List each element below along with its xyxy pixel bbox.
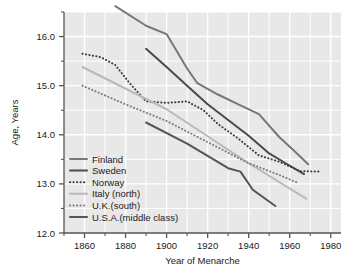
y-tick-label: 16.0 (37, 31, 56, 42)
chart-canvas: 12.013.014.015.016.018601880190019201940… (0, 0, 354, 279)
y-axis-ticks: 12.013.014.015.016.0 (37, 12, 65, 239)
legend-label: Italy (north) (92, 188, 140, 199)
x-tick-label: 1880 (115, 240, 136, 251)
x-axis-ticks: 1860188019001920194019601980 (64, 233, 341, 251)
legend-label: Finland (92, 154, 123, 165)
x-tick-label: 1960 (279, 240, 300, 251)
y-tick-label: 12.0 (37, 228, 56, 239)
y-tick-label: 14.0 (37, 129, 56, 140)
legend-label: Sweden (92, 165, 126, 176)
y-tick-label: 15.0 (37, 80, 56, 91)
y-axis-title: Age, Years (9, 99, 20, 145)
legend-label: U.K.(south) (92, 200, 140, 211)
legend-label: U.S.A.(middle class) (92, 212, 178, 223)
x-axis-title: Year of Menarche (165, 255, 240, 266)
y-tick-label: 13.0 (37, 178, 56, 189)
x-tick-label: 1900 (156, 240, 177, 251)
legend-label: Norway (92, 177, 124, 188)
x-tick-label: 1920 (197, 240, 218, 251)
x-tick-label: 1860 (74, 240, 95, 251)
x-tick-label: 1940 (238, 240, 259, 251)
menarche-age-chart-figure: 12.013.014.015.016.018601880190019201940… (0, 0, 354, 279)
x-tick-label: 1980 (320, 240, 341, 251)
